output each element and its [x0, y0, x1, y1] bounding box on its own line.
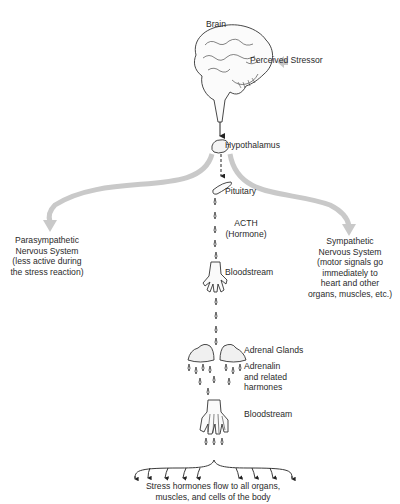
- distribution-brace-icon: [135, 460, 292, 479]
- adrenalin-label: Adrenalin and related harmones: [244, 361, 287, 393]
- bloodstream-2-label: Bloodstream: [244, 409, 292, 420]
- adrenalin-line-2: and related: [244, 372, 287, 383]
- parasympathetic-label: Parasympathetic Nervous System (less act…: [2, 235, 92, 277]
- adrenal-glands-icon: [188, 344, 246, 362]
- parasympathetic-line-2: Nervous System: [2, 246, 92, 257]
- parasympathetic-line-1: Parasympathetic: [2, 235, 92, 246]
- sympathetic-line-5: heart and other: [300, 278, 400, 289]
- outcome-line-2: muscles, and cells of the body: [113, 492, 313, 503]
- sympathetic-line-6: organs, muscles, etc.): [300, 289, 400, 300]
- parasympathetic-arrow-icon: [49, 154, 212, 222]
- parasympathetic-line-4: the stress reaction): [2, 267, 92, 278]
- outcome-label: Stress hormones flow to all organs, musc…: [113, 481, 313, 502]
- acth-label: ACTH (Hormone): [224, 218, 268, 239]
- sympathetic-line-4: immediately to: [300, 268, 400, 279]
- perceived-stressor-label: Perceived Stressor: [250, 55, 323, 66]
- brain-icon: [194, 25, 272, 122]
- hypothalamus-label: Hypothalamus: [225, 140, 280, 151]
- sympathetic-line-3: (motor signals go: [300, 257, 400, 268]
- adrenalin-droplets-icon: [188, 364, 241, 395]
- bloodstream-vessel-icon: [203, 262, 227, 292]
- pituitary-label: Pituitary: [225, 186, 256, 197]
- acth-line-1: ACTH: [224, 218, 268, 229]
- sympathetic-line-2: Nervous System: [300, 247, 400, 258]
- acth-droplets-icon: [214, 198, 217, 259]
- brain-label: Brain: [206, 19, 226, 30]
- parasympathetic-line-3: (less active during: [2, 256, 92, 267]
- acth-line-2: (Hormone): [224, 229, 268, 240]
- adrenal-glands-label: Adrenal Glands: [244, 345, 303, 356]
- bloodstream-2-droplets-icon: [205, 438, 223, 445]
- sympathetic-line-1: Sympathetic: [300, 236, 400, 247]
- adrenalin-line-3: harmones: [244, 382, 287, 393]
- bloodstream-droplets-icon: [215, 298, 217, 345]
- sympathetic-label: Sympathetic Nervous System (motor signal…: [300, 236, 400, 299]
- bloodstream-1-label: Bloodstream: [225, 267, 273, 278]
- outcome-line-1: Stress hormones flow to all organs,: [113, 481, 313, 492]
- adrenalin-line-1: Adrenalin: [244, 361, 287, 372]
